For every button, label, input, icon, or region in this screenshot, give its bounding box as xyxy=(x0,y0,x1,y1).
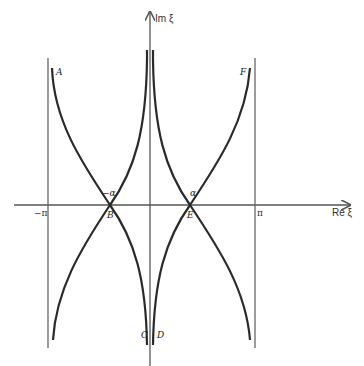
curve-top-E xyxy=(153,50,190,205)
tick-neg-pi: −π xyxy=(34,208,48,218)
curve-B-C xyxy=(110,205,147,345)
label-alpha: α xyxy=(190,188,196,198)
curve-E-bottom-right xyxy=(190,205,250,340)
label-B: B xyxy=(106,210,114,220)
curve-B-top xyxy=(110,50,147,205)
contour-curves xyxy=(52,50,250,345)
label-D: D xyxy=(156,330,164,340)
curve-B-bottom-left xyxy=(53,205,110,340)
curve-E-D xyxy=(153,205,190,345)
re-axis-label: Re ξ xyxy=(332,207,353,219)
curve-E-F xyxy=(190,68,250,205)
label-F: F xyxy=(239,67,247,77)
label-E: E xyxy=(186,210,194,220)
label-C: C xyxy=(141,330,148,340)
tick-pi: π xyxy=(257,208,263,218)
contour-diagram: Im ξ Re ξ −π π A F −α α B E C D xyxy=(0,0,364,366)
curve-A-B xyxy=(52,68,110,205)
label-A: A xyxy=(55,67,63,77)
im-axis-label: Im ξ xyxy=(155,13,174,25)
label-neg-alpha: −α xyxy=(102,188,116,198)
